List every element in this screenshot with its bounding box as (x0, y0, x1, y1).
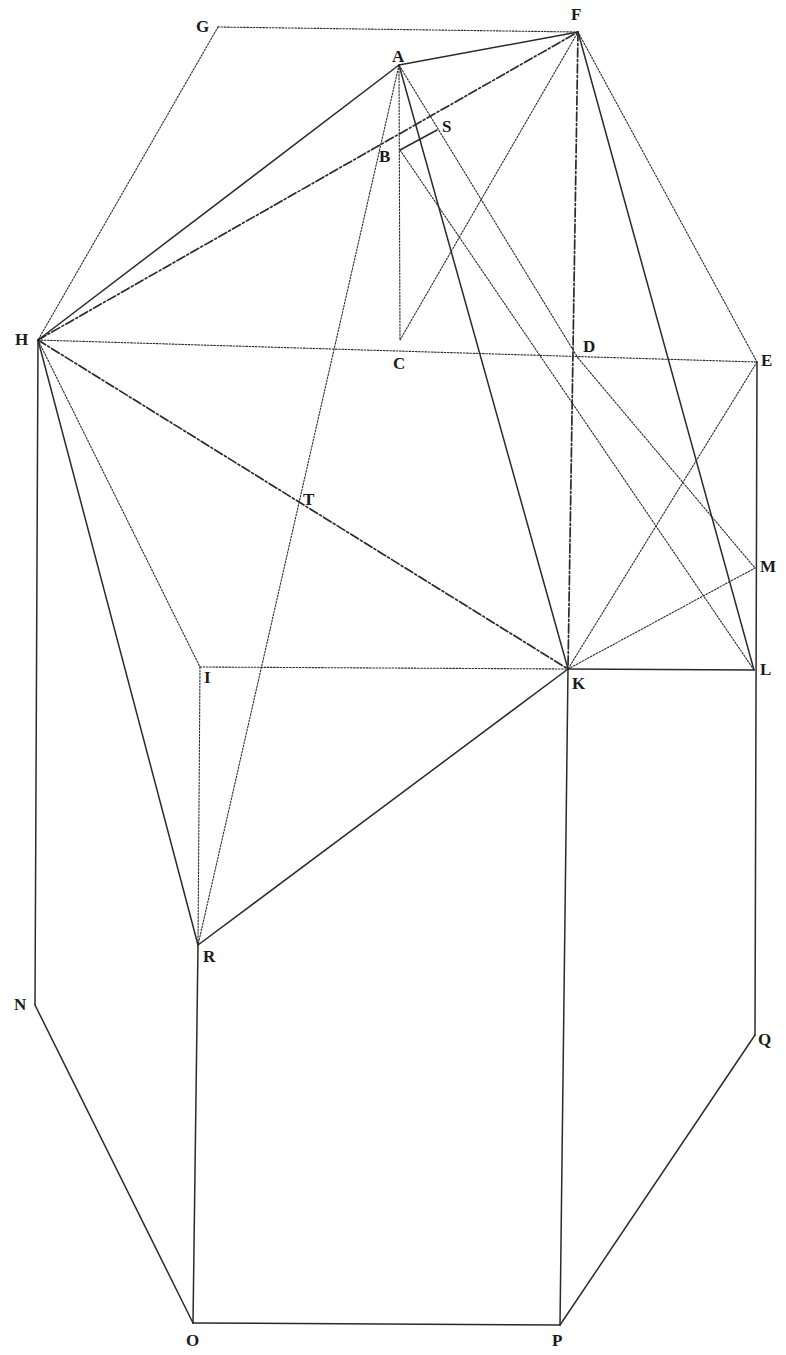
point-label-C: C (393, 354, 405, 373)
point-label-L: L (760, 660, 771, 679)
segment-AC (399, 65, 400, 340)
point-label-H: H (15, 330, 28, 349)
segment-HN (35, 340, 38, 1005)
segment-OP (193, 1323, 560, 1325)
segment-FL (578, 32, 754, 670)
segment-KL (568, 669, 754, 670)
labels-layer: ABCDEFGHIKLMNOPQRST (14, 5, 776, 1350)
segment-EK (568, 362, 757, 669)
point-label-K: K (572, 674, 586, 693)
segment-IK (200, 667, 568, 669)
segment-IR (198, 667, 200, 945)
segment-AF (399, 32, 578, 65)
segment-EQ (755, 362, 757, 1035)
point-label-I: I (204, 668, 211, 687)
geometry-diagram: ABCDEFGHIKLMNOPQRST (0, 0, 786, 1355)
point-label-A: A (392, 47, 405, 66)
point-label-P: P (552, 1331, 562, 1350)
segment-GF (218, 27, 578, 32)
segment-RK (198, 669, 568, 945)
segment-RO (193, 945, 198, 1323)
segment-AR (198, 65, 399, 945)
point-label-M: M (760, 557, 776, 576)
point-label-R: R (203, 947, 216, 966)
segment-HR (38, 340, 198, 945)
segments-layer (35, 27, 757, 1325)
point-label-D: D (583, 337, 595, 356)
point-label-Q: Q (758, 1030, 771, 1049)
segment-NO (35, 1005, 193, 1323)
segment-HF (38, 32, 578, 340)
point-label-F: F (571, 5, 581, 24)
segment-BL (400, 150, 754, 670)
point-label-O: O (186, 1331, 199, 1350)
segment-GH (38, 27, 218, 340)
segment-KM (568, 568, 755, 669)
point-label-S: S (442, 117, 451, 136)
segment-FE (578, 32, 757, 362)
segment-KP (560, 669, 568, 1325)
segment-HA (38, 65, 399, 340)
point-label-N: N (14, 995, 27, 1014)
segment-AD (399, 65, 578, 358)
segment-HI (38, 340, 200, 667)
point-label-G: G (196, 17, 209, 36)
point-label-T: T (303, 490, 315, 509)
segment-AK (399, 65, 568, 669)
segment-CF (400, 32, 578, 340)
point-label-E: E (761, 351, 772, 370)
point-label-B: B (379, 147, 390, 166)
segment-PQ (560, 1035, 755, 1325)
segment-DM (578, 358, 755, 568)
